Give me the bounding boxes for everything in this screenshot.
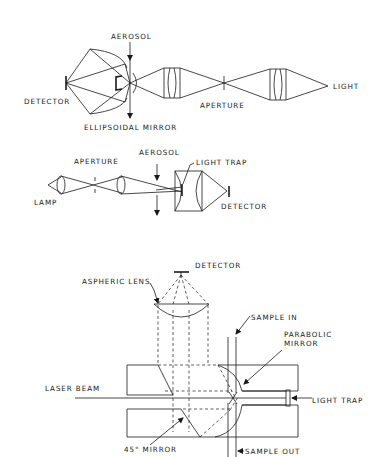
panel-light-trap: APERTURE AEROSOL LIGHT TRAP LAMP DETECTO…	[34, 148, 267, 215]
label-parabolic: PARABOLIC	[284, 330, 332, 339]
ellipsoidal-mirror-inner	[133, 73, 137, 93]
parabolic-mirror-pointer	[244, 350, 282, 384]
parabolic-mirror-upper	[218, 365, 242, 391]
label-sample-in: SAMPLE IN	[251, 313, 298, 322]
label-detector-2: DETECTOR	[221, 202, 267, 211]
light-trap-3	[286, 390, 290, 406]
label-aerosol-2: AEROSOL	[139, 148, 180, 157]
ellipsoidal-mirror-lower	[90, 98, 127, 114]
label-mirror: MIRROR	[284, 339, 318, 348]
lens-pair-1	[164, 68, 180, 98]
lens-pair-2	[270, 69, 286, 100]
optical-diagram: AEROSOL DETECTOR ELLIPSOIDAL MIRROR APER…	[0, 0, 384, 457]
label-aspheric-lens: ASPHERIC LENS	[82, 277, 150, 286]
light-trap-pointer	[183, 163, 194, 184]
parabolic-mirror-lower	[215, 405, 242, 437]
label-aperture-2: APERTURE	[74, 157, 119, 166]
aspheric-lens-pointer	[150, 283, 158, 303]
mirror-45-pointer	[150, 418, 183, 445]
label-ellipsoidal-mirror: ELLIPSOIDAL MIRROR	[84, 123, 177, 132]
label-aerosol: AEROSOL	[111, 32, 152, 41]
lamp-lens	[57, 176, 65, 194]
aspheric-lens-curve	[154, 304, 209, 317]
label-lamp: LAMP	[34, 198, 57, 207]
label-45-mirror: 45° MIRROR	[124, 445, 177, 454]
condenser-lens	[117, 176, 125, 194]
sample-in-pointer	[236, 316, 250, 334]
label-light-trap: LIGHT TRAP	[196, 158, 247, 167]
label-sample-out: SAMPLE OUT	[245, 447, 300, 456]
label-laser-beam: LASER BEAM	[45, 384, 100, 393]
light-stop	[116, 76, 122, 90]
panel-laser-parabolic: DETECTOR ASPHERIC LENS SAMPLE IN PARABOL…	[45, 261, 363, 457]
label-detector: DETECTOR	[24, 97, 70, 106]
label-light: LIGHT	[333, 82, 359, 91]
panel-ellipsoidal-mirror: AEROSOL DETECTOR ELLIPSOIDAL MIRROR APER…	[24, 32, 359, 132]
label-aperture: APERTURE	[200, 101, 245, 110]
label-detector-3: DETECTOR	[195, 261, 241, 270]
label-light-trap-3: LIGHT TRAP	[312, 396, 363, 405]
